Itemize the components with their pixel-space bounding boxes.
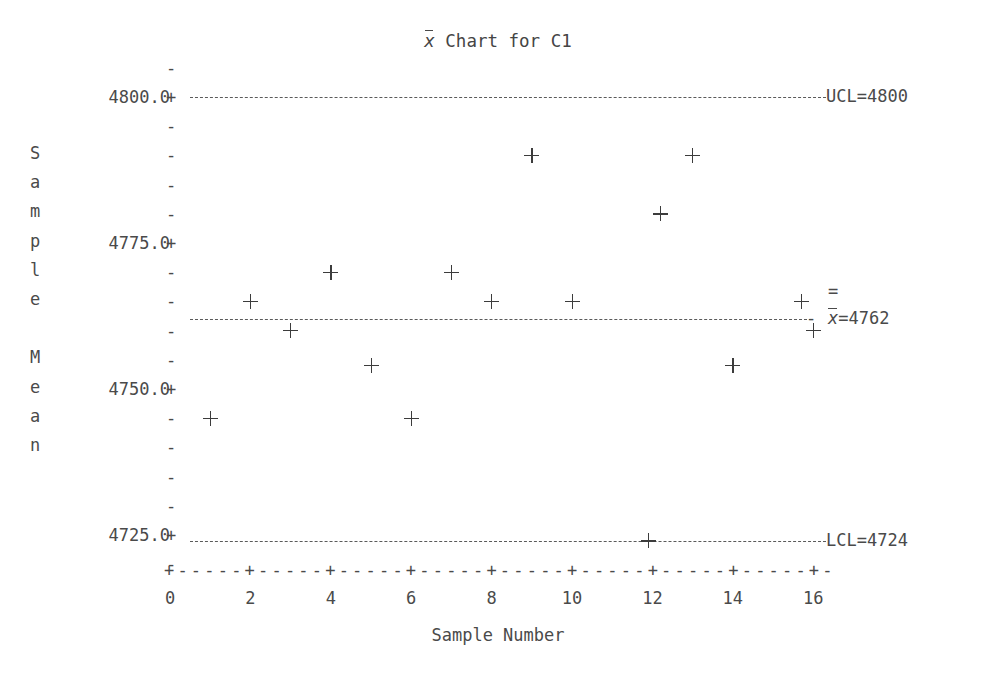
center-xbar-letter: x — [828, 308, 838, 328]
x-axis-tick-label: 0 — [150, 590, 190, 607]
center-label-value: =4762 — [838, 308, 889, 328]
title-overbar — [425, 30, 433, 31]
y-axis-minor-tick: - — [163, 323, 179, 340]
x-axis-spine: +-----+-----+-----+-----+-----+-----+---… — [164, 562, 836, 579]
y-axis-minor-tick: - — [163, 206, 179, 223]
ucl-label: UCL=4800 — [826, 88, 908, 105]
y-axis-major-tick: + — [163, 235, 179, 252]
xbar-control-chart: x Chart for C1 S a m p l e M e a n 4800.… — [0, 0, 996, 699]
data-point — [203, 411, 218, 426]
y-axis-major-tick: + — [163, 89, 179, 106]
center-overbar — [828, 308, 837, 309]
ucl-label-text: UCL=4800 — [826, 86, 908, 106]
lcl-line — [190, 541, 826, 542]
data-point — [653, 206, 668, 221]
y-axis-tick-label: 4750.0 — [74, 381, 170, 398]
data-point — [484, 294, 499, 309]
data-point — [444, 265, 459, 280]
x-axis-tick-label: 6 — [391, 590, 431, 607]
ucl-line — [190, 97, 826, 98]
data-point — [524, 148, 539, 163]
y-axis-major-tick: + — [163, 527, 179, 544]
center-line-connector: - — [806, 310, 816, 327]
y-axis-minor-tick: - — [163, 264, 179, 281]
y-axis-minor-tick: - — [163, 498, 179, 515]
x-axis-tick-label: 12 — [632, 590, 672, 607]
x-axis-tick-label: 8 — [472, 590, 512, 607]
y-axis-minor-tick: - — [163, 469, 179, 486]
x-axis-tick-label: 14 — [713, 590, 753, 607]
title-xbar-letter: x — [424, 31, 435, 51]
data-point — [725, 358, 740, 373]
data-point — [685, 148, 700, 163]
y-axis-tick-label: 4725.0 — [74, 527, 170, 544]
data-point — [565, 294, 580, 309]
x-bar-symbol-center: x — [828, 310, 838, 327]
data-point — [404, 411, 419, 426]
y-axis-tick-label: 4775.0 — [74, 235, 170, 252]
data-point — [283, 323, 298, 338]
y-axis-tick-label: 4800.0 — [74, 89, 170, 106]
y-axis-minor-tick: - — [163, 293, 179, 310]
data-point — [364, 358, 379, 373]
y-axis-minor-tick: - — [163, 410, 179, 427]
y-axis-minor-tick: - — [163, 60, 179, 77]
x-axis-tick-label: 2 — [230, 590, 270, 607]
y-axis-major-tick: + — [163, 381, 179, 398]
center-line-label: x=4762 — [828, 310, 889, 327]
y-axis-minor-tick: - — [163, 147, 179, 164]
y-axis-minor-tick: - — [163, 352, 179, 369]
y-axis-minor-tick: - — [163, 177, 179, 194]
data-point — [323, 265, 338, 280]
y-axis-title: S a m p l e M e a n — [24, 139, 46, 460]
data-point — [243, 294, 258, 309]
x-bar-symbol-title: x — [424, 31, 435, 51]
data-point — [794, 294, 809, 309]
center-line — [190, 319, 812, 320]
lcl-label: LCL=4724 — [826, 532, 908, 549]
x-axis-tick-label: 4 — [311, 590, 351, 607]
data-point — [641, 533, 656, 548]
x-axis-tick-label: 10 — [552, 590, 592, 607]
y-axis-minor-tick: - — [163, 118, 179, 135]
lcl-label-text: LCL=4724 — [826, 530, 908, 550]
title-rest: Chart for C1 — [435, 31, 572, 51]
x-axis-tick-label: 16 — [793, 590, 833, 607]
y-axis-minor-tick: - — [163, 439, 179, 456]
chart-title: x Chart for C1 — [0, 31, 996, 51]
center-double-bar-glyph: = — [828, 283, 838, 300]
x-axis-title: Sample Number — [0, 627, 996, 644]
